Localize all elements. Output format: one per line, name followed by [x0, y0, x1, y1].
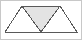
- segment-left-outer-edge: [5, 6, 22, 32]
- geometric-figure-svg: [0, 0, 82, 40]
- segment-right-outer-edge: [60, 6, 77, 32]
- inner-inverted-triangle: [22, 6, 60, 32]
- geometric-figure-canvas: [0, 0, 82, 40]
